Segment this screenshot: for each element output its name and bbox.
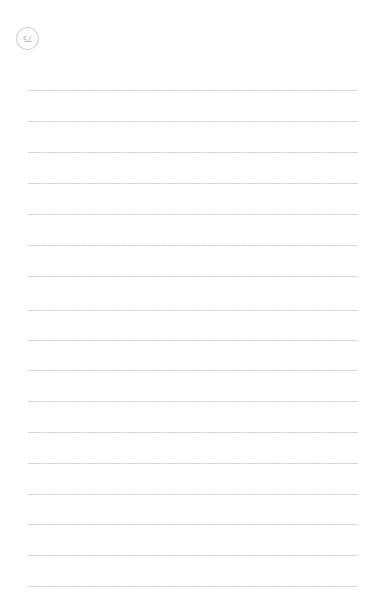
rule-line: [28, 183, 358, 184]
rule-line: [28, 524, 358, 525]
rule-line: [28, 401, 358, 402]
rule-line: [28, 214, 358, 215]
rule-line: [28, 494, 358, 495]
rule-line: [28, 310, 358, 311]
rule-line: [28, 370, 358, 371]
rule-line: [28, 276, 358, 277]
ruled-lines-area: [0, 0, 386, 600]
rule-line: [28, 245, 358, 246]
rule-line: [28, 121, 358, 122]
rule-line: [28, 586, 358, 587]
rule-line: [28, 432, 358, 433]
rule-line: [28, 555, 358, 556]
rule-line: [28, 340, 358, 341]
rule-line: [28, 152, 358, 153]
notebook-page: 75: [0, 0, 386, 600]
rule-line: [28, 90, 358, 91]
rule-line: [28, 463, 358, 464]
